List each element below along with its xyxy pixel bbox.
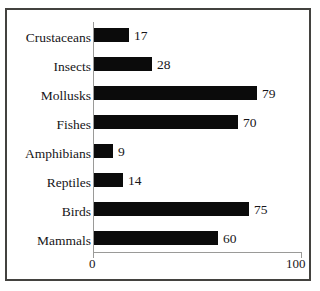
bar-value-label: 9 (118, 144, 125, 159)
bar (94, 144, 113, 158)
bar (94, 202, 249, 216)
bar-category-label: Insects (54, 59, 92, 75)
bar-category-label: Reptiles (47, 175, 91, 191)
bar-category-label: Amphibians (25, 146, 91, 162)
bar-row: Mollusks79 (0, 86, 320, 108)
bar-value-label: 70 (243, 115, 257, 130)
bar-row: Birds75 (0, 202, 320, 224)
bar-value-label: 79 (262, 86, 276, 101)
bar-value-label: 14 (128, 173, 142, 188)
bar-category-label: Birds (62, 204, 91, 220)
bar-row: Mammals60 (0, 231, 320, 253)
bar (94, 173, 123, 187)
bar (94, 86, 257, 100)
bar (94, 28, 129, 42)
bar (94, 57, 152, 71)
bar (94, 115, 238, 129)
bar-row: Fishes70 (0, 115, 320, 137)
bar-value-label: 28 (157, 57, 171, 72)
bar-row: Amphibians9 (0, 144, 320, 166)
bar-row: Reptiles14 (0, 173, 320, 195)
x-axis-tick-label-100: 100 (286, 256, 306, 271)
x-axis-tick-label-0: 0 (89, 256, 96, 271)
bar-row: Insects28 (0, 57, 320, 79)
bar-category-label: Mollusks (41, 88, 91, 104)
bar-category-label: Fishes (56, 117, 91, 133)
plot-area: 0 100 Crustaceans17Insects28Mollusks79Fi… (0, 0, 320, 291)
bar-category-label: Mammals (37, 233, 91, 249)
bar (94, 231, 218, 245)
bar-value-label: 60 (223, 231, 237, 246)
bar-category-label: Crustaceans (26, 30, 91, 46)
bar-chart-figure: 0 100 Crustaceans17Insects28Mollusks79Fi… (0, 0, 320, 291)
bar-value-label: 75 (254, 202, 268, 217)
bar-row: Crustaceans17 (0, 28, 320, 50)
bar-value-label: 17 (134, 28, 148, 43)
